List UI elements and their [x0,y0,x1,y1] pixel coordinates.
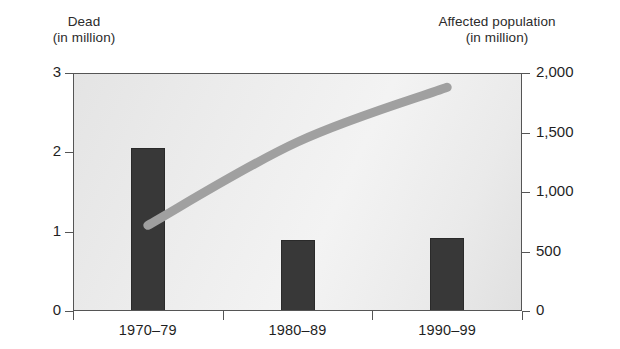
bar-1980-89 [281,240,315,311]
y-axis-tick-left [65,73,73,74]
bar-1970-79 [131,148,165,311]
right-axis-title-line1: Affected population [438,14,555,29]
x-axis-tick [372,311,373,320]
x-axis-tick [223,311,224,320]
left-axis-title-line1: Dead [68,14,101,29]
affected-population-line-path [148,87,447,225]
y-axis-label-right: 1,000 [536,182,616,199]
x-axis-label: 1970–79 [78,322,218,338]
left-axis-title: Dead (in million) [24,14,144,46]
y-axis-tick-left [65,232,73,233]
y-axis-tick-left [65,152,73,153]
y-axis-tick-left [65,311,73,312]
x-axis-tick [73,311,74,320]
y-axis-tick-right [522,133,530,134]
right-axis-title-line2: (in million) [392,30,602,46]
x-axis-label: 1980–89 [228,322,368,338]
chart-figure: Dead (in million) Affected population (i… [0,0,620,349]
bar-1990-99 [430,238,464,311]
y-axis-label-left: 0 [1,301,61,318]
y-axis-label-right: 500 [536,242,616,259]
y-axis-tick-right [522,73,530,74]
plot-area [73,73,522,311]
y-axis-tick-right [522,311,530,312]
left-axis-title-line2: (in million) [24,30,144,46]
right-axis-title: Affected population (in million) [392,14,602,46]
y-axis-tick-right [522,252,530,253]
y-axis-label-left: 3 [1,63,61,80]
x-axis-label: 1990–99 [377,322,517,338]
y-axis-label-left: 2 [1,142,61,159]
x-axis-tick [522,311,523,320]
y-axis-label-right: 2,000 [536,63,616,80]
y-axis-label-left: 1 [1,222,61,239]
y-axis-label-right: 0 [536,301,616,318]
y-axis-tick-right [522,192,530,193]
y-axis-label-right: 1,500 [536,123,616,140]
